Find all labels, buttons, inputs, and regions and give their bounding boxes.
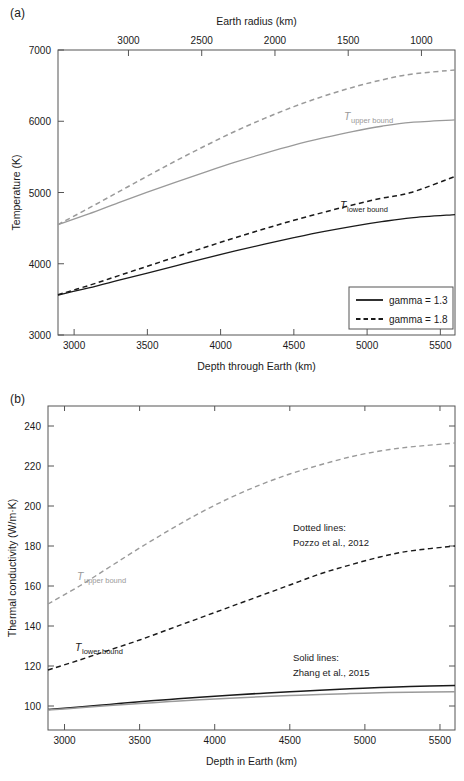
panel-a-curve-3 (58, 176, 455, 294)
panel-b-annotation-dotted: Dotted lines:Pozzo et al., 2012 (293, 522, 369, 548)
panel-b-y-axis-title: Thermal conductivity (W/m·K) (6, 499, 18, 637)
panel-b-xtick-label: 3500 (128, 735, 151, 746)
panel-a-top-xtick-label: 1500 (337, 35, 360, 46)
panel-b-xtick-label: 4500 (279, 735, 302, 746)
panel-a: (a) 300035004000450050005500300025002000… (0, 0, 464, 390)
panel-a-label-upper-bound: Tupper bound (344, 110, 393, 125)
panel-b-ytick-label: 180 (24, 541, 41, 552)
panel-b-bottom-axis-title: Depth in Earth (km) (206, 755, 297, 767)
panel-a-xtick-label: 5000 (356, 340, 379, 351)
panel-a-top-xtick-label: 2500 (191, 35, 214, 46)
panel-b-ytick-label: 240 (24, 421, 41, 432)
panel-a-xtick-label: 3000 (63, 340, 86, 351)
panel-b-annotation-solid-line1: Solid lines: (293, 652, 339, 663)
panel-b-xtick-label: 3000 (53, 735, 76, 746)
panel-a-label-lower-bound: Tlower bound (340, 199, 388, 214)
panel-a-curve-0 (58, 120, 455, 225)
panel-b-xtick-label: 4000 (204, 735, 227, 746)
panel-b: (b) 300035004000450050005500240220200180… (0, 390, 464, 781)
panel-b-ytick-label: 140 (24, 621, 41, 632)
panel-b-ytick-label: 220 (24, 461, 41, 472)
panel-b-label-lower-bound: Tlower bound (75, 641, 123, 656)
panel-a-ytick-label: 7000 (29, 45, 52, 56)
panel-a-curve-2 (58, 215, 455, 296)
panel-b-xtick-label: 5500 (429, 735, 452, 746)
panel-b-letter: (b) (10, 392, 25, 406)
panel-b-annotation-solid-line2: Zhang et al., 2015 (293, 667, 370, 678)
panel-a-top-xtick-label: 1000 (410, 35, 433, 46)
panel-a-ytick-label: 5000 (29, 188, 52, 199)
panel-b-ytick-label: 200 (24, 501, 41, 512)
panel-b-annotation-dotted-line1: Dotted lines: (293, 522, 346, 533)
panel-a-top-xtick-label: 2000 (264, 35, 287, 46)
panel-b-label-lower-bound-subscript: lower bound (82, 647, 123, 656)
figure-container: (a) 300035004000450050005500300025002000… (0, 0, 464, 781)
panel-b-annotation-solid: Solid lines:Zhang et al., 2015 (293, 652, 370, 678)
panel-a-plot: 3000350040004500500055003000250020001500… (0, 0, 464, 390)
panel-b-ytick-label: 100 (24, 701, 41, 712)
panel-a-label-lower-bound-subscript: lower bound (347, 205, 388, 214)
panel-a-ytick-label: 4000 (29, 259, 52, 270)
panel-a-letter: (a) (10, 6, 25, 20)
panel-b-ytick-label: 120 (24, 661, 41, 672)
panel-a-ytick-label: 3000 (29, 330, 52, 341)
panel-a-top-axis-title: Earth radius (km) (216, 15, 297, 27)
panel-a-legend-label-1: gamma = 1.8 (389, 314, 448, 325)
panel-b-annotation-dotted-line2: Pozzo et al., 2012 (293, 537, 369, 548)
panel-b-ytick-label: 160 (24, 581, 41, 592)
panel-a-xtick-label: 3500 (136, 340, 159, 351)
panel-a-label-upper-bound-subscript: upper bound (351, 116, 393, 125)
panel-a-ytick-label: 6000 (29, 116, 52, 127)
panel-a-xtick-label: 4500 (283, 340, 306, 351)
panel-a-legend: gamma = 1.3gamma = 1.8 (349, 287, 453, 329)
panel-a-xtick-label: 4000 (209, 340, 232, 351)
panel-b-plot: 3000350040004500500055002402202001801601… (0, 390, 464, 781)
panel-b-xtick-label: 5000 (354, 735, 377, 746)
panel-a-xtick-label: 5500 (429, 340, 452, 351)
panel-a-y-axis-title: Temperature (K) (10, 155, 22, 231)
panel-a-curve-1 (58, 70, 455, 225)
panel-a-legend-label-0: gamma = 1.3 (389, 295, 448, 306)
panel-a-bottom-axis-title: Depth through Earth (km) (197, 360, 315, 372)
panel-b-label-upper-bound-subscript: upper bound (84, 576, 126, 585)
panel-a-top-xtick-label: 3000 (117, 35, 140, 46)
